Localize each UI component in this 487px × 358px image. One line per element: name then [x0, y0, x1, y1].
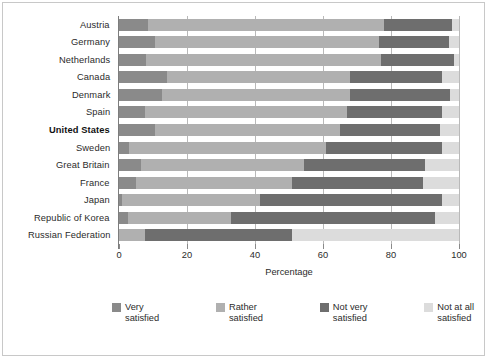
bar-segment	[119, 142, 129, 154]
legend-label: Not at all satisfied	[437, 302, 474, 324]
bar-segment	[442, 142, 459, 154]
bar-segment	[423, 177, 459, 189]
bar-segment	[292, 229, 459, 241]
bar-segment	[381, 54, 454, 66]
bar-segment	[128, 212, 232, 224]
x-tick-20	[187, 244, 188, 249]
bar-segment	[167, 71, 351, 83]
bar-segment	[442, 71, 459, 83]
x-tick-label-0: 0	[116, 250, 121, 261]
bar-segment	[119, 177, 136, 189]
bar-segment	[450, 89, 459, 101]
legend-swatch-icon	[216, 303, 225, 312]
bar-segment	[379, 36, 449, 48]
x-tick-0	[119, 244, 120, 249]
bar-segment	[119, 212, 128, 224]
bar-row	[119, 19, 459, 31]
bar-segment	[129, 142, 326, 154]
legend-item[interactable]: Very satisfied	[112, 302, 159, 332]
bar-segment	[442, 194, 459, 206]
bar-segment	[304, 159, 425, 171]
legend-item[interactable]: Rather satisfied	[216, 302, 263, 332]
x-tick-60	[323, 244, 324, 249]
bar-segment	[162, 89, 351, 101]
bar-segment	[119, 229, 145, 241]
y-axis-label-japan: Japan	[84, 194, 110, 206]
legend-item[interactable]: Not very satisfied	[320, 302, 368, 332]
bar-segment	[119, 54, 146, 66]
bar-segment	[119, 71, 167, 83]
bar-segment	[425, 159, 459, 171]
bar-segment	[136, 177, 292, 189]
bar-segment	[452, 19, 459, 31]
bar-segment	[350, 71, 442, 83]
legend-label: Rather satisfied	[229, 302, 263, 324]
bar-row	[119, 177, 459, 189]
bar-row	[119, 89, 459, 101]
bar-row	[119, 212, 459, 224]
bar-segment	[435, 212, 459, 224]
bar-segment	[145, 106, 347, 118]
bar-segment	[141, 159, 304, 171]
x-axis-title: Percentage	[119, 267, 459, 277]
bar-row	[119, 124, 459, 136]
y-axis-label-great-britain: Great Britain	[56, 159, 110, 171]
legend-swatch-icon	[320, 303, 329, 312]
bar-segment	[347, 106, 442, 118]
bar-segment	[292, 177, 423, 189]
bar-row	[119, 71, 459, 83]
legend-label: Not very satisfied	[333, 302, 368, 324]
y-axis-label-france: France	[80, 177, 110, 189]
legend-swatch-icon	[112, 303, 121, 312]
x-tick-label-60: 60	[318, 250, 328, 261]
bar-segment	[119, 124, 155, 136]
bar-row	[119, 229, 459, 241]
bar-segment	[146, 54, 381, 66]
bar-segment	[260, 194, 442, 206]
y-axis-label-spain: Spain	[86, 106, 110, 118]
x-tick-label-20: 20	[182, 250, 192, 261]
x-tick-label-100: 100	[451, 250, 467, 261]
bar-segment	[119, 36, 155, 48]
x-tick-100	[459, 244, 460, 249]
bar-row	[119, 194, 459, 206]
gridline-100	[459, 16, 460, 244]
y-axis-category-labels: AustriaGermanyNetherlandsCanadaDenmarkSp…	[0, 16, 114, 244]
bar-segment	[148, 19, 384, 31]
bar-segment	[155, 124, 340, 136]
bar-row	[119, 36, 459, 48]
y-axis-label-denmark: Denmark	[72, 89, 110, 101]
y-axis-label-austria: Austria	[80, 19, 110, 31]
plot-area	[119, 16, 459, 244]
bar-segment	[145, 229, 293, 241]
y-axis-label-republic-of-korea: Republic of Korea	[34, 212, 110, 224]
bar-segment	[231, 212, 435, 224]
bar-segment	[122, 194, 260, 206]
y-axis-label-united-states: United States	[49, 124, 110, 136]
bar-row	[119, 142, 459, 154]
x-tick-40	[255, 244, 256, 249]
bar-segment	[442, 106, 459, 118]
x-tick-label-40: 40	[250, 250, 260, 261]
bar-segment	[384, 19, 452, 31]
bar-segment	[449, 36, 459, 48]
y-axis-label-canada: Canada	[77, 71, 110, 83]
y-axis-label-netherlands: Netherlands	[59, 54, 110, 66]
bar-row	[119, 159, 459, 171]
y-axis-label-russian-federation: Russian Federation	[28, 229, 110, 241]
chart-legend: Very satisfiedRather satisfiedNot very s…	[112, 302, 474, 332]
bar-segment	[119, 159, 141, 171]
legend-item[interactable]: Not at all satisfied	[424, 302, 474, 332]
bar-segment	[119, 106, 145, 118]
bar-segment	[350, 89, 450, 101]
chart-figure: AustriaGermanyNetherlandsCanadaDenmarkSp…	[0, 0, 487, 358]
x-tick-label-80: 80	[386, 250, 396, 261]
bar-segment	[440, 124, 459, 136]
bar-segment	[155, 36, 379, 48]
bar-segment	[340, 124, 440, 136]
bar-segment	[119, 89, 162, 101]
legend-label: Very satisfied	[125, 302, 159, 324]
bar-segment	[119, 19, 148, 31]
y-axis-label-sweden: Sweden	[76, 142, 110, 154]
bar-segment	[326, 142, 442, 154]
